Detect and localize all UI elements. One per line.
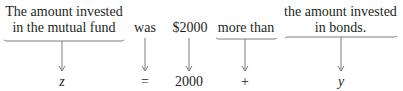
arrow-down-icon-plus [242, 39, 248, 71]
arrow-down-icon-2000 [186, 38, 192, 71]
arrow-down-icon-equals [142, 38, 148, 71]
symbol-plus: + [235, 74, 255, 89]
symbol-y: y [331, 74, 351, 89]
arrow-down-icon-y [338, 37, 344, 71]
arrow-down-icon-z [59, 43, 65, 71]
symbol-z: z [52, 74, 72, 89]
symbol-equals: = [135, 74, 155, 89]
brace-mutual-fund [4, 40, 124, 43]
brace-more-than [216, 38, 277, 39]
symbol-2000: 2000 [172, 74, 206, 89]
